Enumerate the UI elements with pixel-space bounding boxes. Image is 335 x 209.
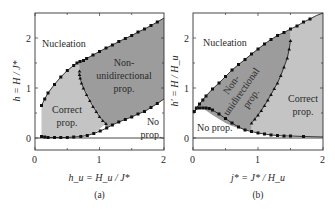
a-label-nonuni-3: prop.: [114, 83, 135, 94]
b-label-noprop: No prop.: [197, 122, 233, 133]
panel-b: 0 1 2 0 1 2 Nucleation Non- unidirection…: [169, 13, 325, 201]
b-xtick-0: 0: [190, 154, 195, 165]
a-xtick-1: 1: [97, 154, 102, 165]
a-caption: (a): [94, 190, 105, 201]
panel-a: 0 1 2 0 1 2 Nucleation Non- unidirection…: [11, 13, 166, 201]
b-ytick-1: 1: [184, 83, 189, 94]
a-xtick-2: 2: [161, 154, 166, 165]
a-label-nucleation: Nucleation: [42, 38, 86, 49]
b-ylabel: h' = H / H_u: [169, 55, 180, 106]
b-xtick-1: 1: [255, 154, 260, 165]
a-label-nonuni-1: Non-: [114, 57, 135, 68]
a-ytick-0: 0: [26, 133, 31, 144]
figure: 0 1 2 0 1 2 Nucleation Non- unidirection…: [0, 0, 335, 209]
a-ytick-2: 2: [26, 33, 31, 44]
b-label-nucleation: Nucleation: [203, 37, 247, 48]
a-label-nonuni-2: unidirectional: [96, 70, 152, 81]
a-xlabel: h_u = H_u / J*: [68, 172, 129, 183]
a-label-noprop-2: prop.: [141, 129, 162, 140]
b-xtick-2: 2: [320, 154, 325, 165]
a-label-correct-1: Correct: [52, 104, 82, 115]
b-caption: (b): [252, 190, 263, 201]
b-ytick-0: 0: [184, 133, 189, 144]
b-ytick-2: 2: [184, 33, 189, 44]
b-xlabel: j* = J* / H_u: [229, 172, 285, 183]
a-xtick-0: 0: [32, 154, 37, 165]
a-label-noprop-1: No: [147, 116, 159, 127]
b-label-correct-1: Correct: [288, 93, 318, 104]
a-ytick-1: 1: [26, 83, 31, 94]
a-label-correct-2: prop.: [57, 117, 78, 128]
a-ylabel: h = H / J*: [11, 60, 22, 101]
b-label-correct-2: prop.: [293, 106, 314, 117]
